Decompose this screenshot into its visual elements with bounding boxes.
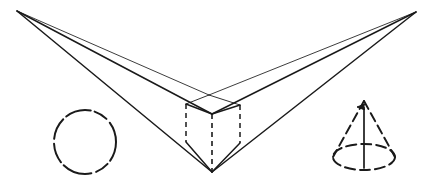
left-ray-to-top-rear-corner bbox=[17, 11, 209, 95]
left-ray-to-top-near-corner bbox=[17, 11, 212, 114]
box-top-edge-far-left bbox=[186, 95, 209, 104]
cone-slant-left bbox=[333, 101, 364, 157]
perspective-figure-svg bbox=[0, 0, 433, 190]
box-top-edge-far-right bbox=[209, 95, 240, 105]
perspective-drawing-canvas: Technical line drawing: a rectangular bo… bbox=[0, 0, 433, 190]
box-top-edge-near-left bbox=[186, 104, 212, 114]
box-bottom-edge-right bbox=[212, 143, 240, 172]
construction-cone-group bbox=[333, 101, 395, 170]
cone-slant-right bbox=[364, 101, 395, 157]
construction-circle bbox=[54, 110, 116, 174]
right-ray-to-top-near-corner bbox=[212, 12, 416, 114]
right-ray-to-top-rear-corner bbox=[209, 12, 416, 95]
construction-circle-group bbox=[54, 110, 116, 174]
box-bottom-edge-left bbox=[186, 142, 212, 172]
